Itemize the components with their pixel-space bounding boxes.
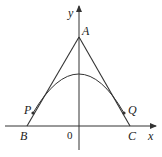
x-axis-label: x [147,129,154,143]
point-q-label: Q [128,103,137,117]
point-a-label: A [81,24,90,38]
point-q [122,111,125,114]
diagram-canvas: y x 0 A B C P Q [0,0,162,157]
point-p [31,111,34,114]
side-ac [79,37,130,126]
point-b-label: B [20,129,28,143]
side-ab [27,37,79,126]
point-p-label: P [23,103,32,117]
y-axis-label: y [67,6,74,20]
point-c-label: C [128,129,137,143]
origin-label: 0 [67,129,73,141]
